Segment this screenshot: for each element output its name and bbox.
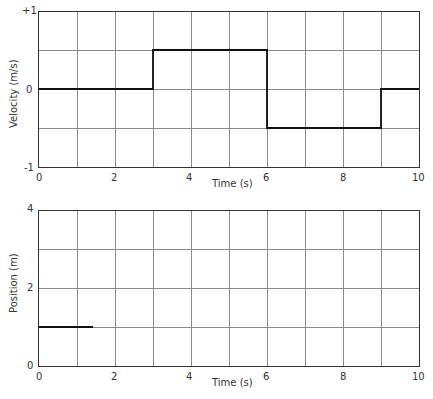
position-y-axis-label: Position (m) — [8, 253, 19, 313]
position-y-tick-mid: 2 — [27, 282, 33, 293]
velocity-x-tick-6: 6 — [263, 172, 269, 183]
velocity-x-tick-2: 2 — [111, 172, 117, 183]
position-x-tick-6: 6 — [263, 371, 269, 382]
velocity-x-axis-label: Time (s) — [212, 178, 253, 189]
velocity-x-tick-8: 8 — [340, 172, 346, 183]
position-x-axis-label: Time (s) — [212, 377, 253, 388]
velocity-trace — [39, 12, 419, 167]
position-plot-area — [38, 210, 420, 367]
position-trace — [39, 211, 419, 366]
velocity-y-tick-mid: 0 — [26, 84, 32, 95]
velocity-x-tick-0: 0 — [36, 172, 42, 183]
position-x-tick-2: 2 — [111, 371, 117, 382]
velocity-y-axis-label: Velocity (m/s) — [8, 59, 19, 128]
position-x-tick-10: 10 — [412, 371, 425, 382]
position-x-tick-8: 8 — [340, 371, 346, 382]
position-y-tick-bottom: 0 — [27, 360, 33, 371]
velocity-y-tick-bottom: -1 — [24, 162, 34, 173]
velocity-x-tick-10: 10 — [412, 172, 425, 183]
velocity-y-tick-top: +1 — [22, 5, 37, 16]
position-x-tick-0: 0 — [36, 371, 42, 382]
position-y-tick-top: 4 — [27, 203, 33, 214]
position-x-tick-4: 4 — [186, 371, 192, 382]
velocity-x-tick-4: 4 — [186, 172, 192, 183]
velocity-plot-area — [38, 11, 420, 168]
